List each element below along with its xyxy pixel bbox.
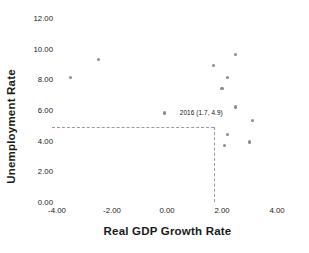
data-point bbox=[69, 76, 72, 79]
x-tick-label: 2.00 bbox=[200, 206, 244, 215]
data-point bbox=[234, 105, 237, 108]
horizontal-guide-line bbox=[52, 127, 214, 128]
x-tick-label: -2.00 bbox=[90, 206, 134, 215]
data-point bbox=[226, 133, 229, 136]
data-point bbox=[248, 140, 251, 143]
x-tick-label: 0.00 bbox=[145, 206, 189, 215]
data-point bbox=[97, 58, 100, 61]
x-axis-title: Real GDP Growth Rate bbox=[40, 225, 295, 237]
x-tick-label: -4.00 bbox=[35, 206, 79, 215]
plot-area: 2016 (1.7, 4.9) bbox=[0, 0, 309, 253]
scatter-chart: Unemployment Rate 0.002.004.006.008.0010… bbox=[0, 0, 309, 253]
data-point bbox=[226, 76, 229, 79]
x-tick-label: 4.00 bbox=[255, 206, 299, 215]
vertical-guide-line bbox=[214, 127, 215, 202]
data-point bbox=[251, 119, 254, 122]
data-point bbox=[223, 144, 226, 147]
point-annotation-label: 2016 (1.7, 4.9) bbox=[180, 109, 223, 116]
data-point bbox=[163, 111, 166, 114]
data-point bbox=[220, 87, 223, 90]
data-point bbox=[234, 53, 237, 56]
data-point bbox=[212, 64, 215, 67]
